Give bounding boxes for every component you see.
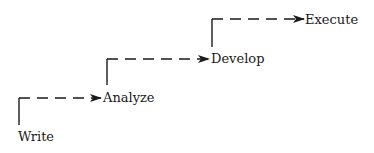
connector-develop-execute: [212, 19, 304, 47]
step-label-analyze: Analyze: [103, 91, 155, 105]
connector-analyze-develop: [107, 59, 209, 85]
step-label-develop: Develop: [211, 52, 264, 66]
step-label-write: Write: [18, 130, 54, 144]
step-label-execute: Execute: [305, 13, 358, 27]
connector-write-analyze: [19, 98, 101, 125]
